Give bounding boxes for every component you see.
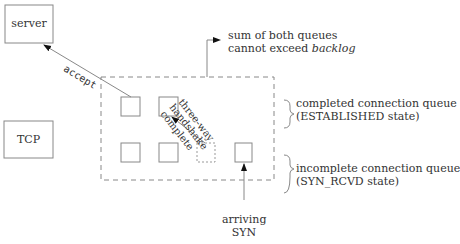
arrow-head-icon bbox=[213, 37, 221, 43]
backlog-term: backlog bbox=[312, 42, 356, 55]
completed-slot bbox=[121, 97, 140, 116]
incomplete-slot bbox=[159, 143, 178, 162]
completed-queue-label: completed connection queue bbox=[296, 97, 457, 110]
incomplete-queue-label: incomplete connection queue bbox=[296, 162, 460, 175]
backlog-note-line1: sum of both queues bbox=[228, 29, 337, 42]
server-label: server bbox=[5, 17, 53, 30]
incomplete-queue-state: (SYN_RCVD state) bbox=[296, 175, 399, 188]
completed-brace bbox=[284, 100, 294, 128]
backlog-note-line2: cannot exceed backlog bbox=[228, 42, 355, 55]
incomplete-slot bbox=[121, 143, 140, 162]
incomplete-slot-new bbox=[235, 143, 252, 162]
arriving-label: arriving bbox=[222, 213, 266, 226]
completed-queue-state: (ESTABLISHED state) bbox=[296, 110, 420, 123]
incomplete-brace bbox=[284, 155, 294, 193]
tcp-label: TCP bbox=[4, 133, 53, 146]
syn-label: SYN bbox=[222, 226, 266, 239]
